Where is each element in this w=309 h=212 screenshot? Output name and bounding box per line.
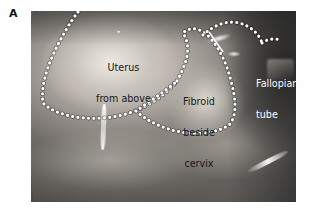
label-uterus-line2: from above [96, 94, 151, 104]
label-fibroid: Fibroid beside cervix [183, 76, 215, 190]
figure-panel: A Uterus from a [0, 0, 309, 212]
label-uterus: Uterus from above [96, 42, 151, 125]
label-fibroid-line2: beside [183, 128, 215, 138]
label-fallopian-tube: Fallopian tube [256, 58, 296, 141]
label-fallopian-tube-line1: Fallopian [256, 79, 296, 89]
label-fibroid-line1: Fibroid [183, 97, 215, 107]
label-fallopian-tube-line2: tube [256, 110, 296, 120]
label-fibroid-line3: cervix [183, 159, 215, 169]
label-uterus-line1: Uterus [96, 63, 151, 73]
panel-label: A [9, 8, 18, 19]
laparoscopic-photograph: Uterus from above Fibroid beside cervix … [31, 11, 296, 202]
